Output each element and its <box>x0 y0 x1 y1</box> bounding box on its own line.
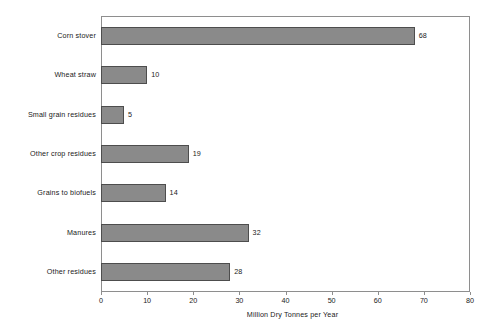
x-tick-label: 70 <box>420 297 428 305</box>
bar-value-label: 5 <box>128 111 132 119</box>
x-tick-label: 60 <box>374 297 382 305</box>
bar-value-label: 28 <box>234 268 242 276</box>
category-label: Other residues <box>0 268 96 276</box>
x-tick-mark <box>286 292 287 295</box>
x-axis-title: Million Dry Tonnes per Year <box>0 310 487 319</box>
bar-chart: Corn stoverWheat strawSmall grain residu… <box>0 0 487 335</box>
x-tick-mark <box>193 292 194 295</box>
bar <box>101 106 124 124</box>
x-tick-mark <box>101 292 102 295</box>
bar-value-label: 10 <box>151 71 159 79</box>
category-label: Manures <box>0 229 96 237</box>
x-tick-mark <box>424 292 425 295</box>
x-tick-mark <box>378 292 379 295</box>
bar <box>101 263 230 281</box>
x-tick-mark <box>147 292 148 295</box>
x-tick-label: 50 <box>328 297 336 305</box>
bar-value-label: 14 <box>170 189 178 197</box>
bar <box>101 66 147 84</box>
bar-value-label: 68 <box>419 32 427 40</box>
category-label: Grains to biofuels <box>0 189 96 197</box>
x-axis-title-text: Million Dry Tonnes per Year <box>149 310 338 319</box>
bar-value-label: 19 <box>193 150 201 158</box>
category-label: Corn stover <box>0 32 96 40</box>
bar-value-label: 32 <box>253 229 261 237</box>
bar <box>101 27 415 45</box>
x-tick-mark <box>332 292 333 295</box>
bar <box>101 224 249 242</box>
x-tick-label: 30 <box>235 297 243 305</box>
x-tick-label: 0 <box>99 297 103 305</box>
category-label: Small grain residues <box>0 111 96 119</box>
bars-layer: 6810519143228 <box>101 16 470 292</box>
x-tick-mark <box>470 292 471 295</box>
category-axis-labels: Corn stoverWheat strawSmall grain residu… <box>0 16 96 292</box>
x-tick-label: 40 <box>282 297 290 305</box>
x-tick-label: 20 <box>189 297 197 305</box>
x-tick-mark <box>239 292 240 295</box>
x-tick-label: 10 <box>143 297 151 305</box>
x-axis: 01020304050607080 <box>101 292 470 312</box>
bar <box>101 145 189 163</box>
x-tick-label: 80 <box>466 297 474 305</box>
bar <box>101 184 166 202</box>
category-label: Other crop residues <box>0 150 96 158</box>
category-label: Wheat straw <box>0 71 96 79</box>
